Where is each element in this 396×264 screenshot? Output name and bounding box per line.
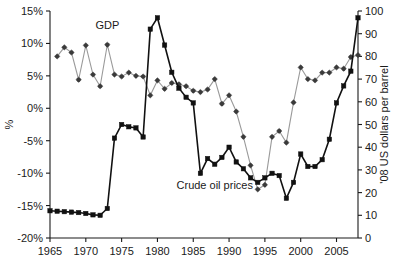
y2-tick-label: 80 bbox=[365, 50, 377, 62]
series-annotations: GDPCrude oil prices bbox=[95, 19, 253, 191]
y-tick-label: -5% bbox=[23, 135, 43, 147]
data-point-marker bbox=[234, 160, 238, 164]
data-point-marker bbox=[184, 95, 188, 99]
data-point-marker bbox=[198, 171, 202, 175]
crude-oil-series-label: Crude oil prices bbox=[177, 179, 254, 191]
x-tick-label: 2005 bbox=[324, 245, 348, 257]
data-point-marker bbox=[306, 164, 310, 168]
data-point-marker bbox=[298, 65, 303, 70]
y-tick-label: 0% bbox=[27, 102, 43, 114]
data-point-marker bbox=[126, 70, 131, 75]
x-tick-label: 1980 bbox=[145, 245, 169, 257]
data-point-marker bbox=[98, 213, 102, 217]
data-point-marker bbox=[141, 74, 146, 79]
x-tick-label: 1990 bbox=[217, 245, 241, 257]
data-point-marker bbox=[48, 209, 52, 213]
data-point-marker bbox=[248, 163, 253, 168]
data-point-marker bbox=[305, 77, 310, 82]
x-tick-label: 1970 bbox=[74, 245, 98, 257]
x-tick-label: 2000 bbox=[288, 245, 312, 257]
y-axis-tick-labels-left: -20%-15%-10%-5%0%5%10%15% bbox=[17, 5, 43, 244]
data-point-marker bbox=[170, 70, 174, 74]
data-point-marker bbox=[119, 122, 123, 126]
x-tick-label: 1975 bbox=[109, 245, 133, 257]
data-point-marker bbox=[191, 88, 196, 93]
data-point-marker bbox=[213, 162, 217, 166]
y2-tick-label: 70 bbox=[365, 73, 377, 85]
data-point-marker bbox=[141, 135, 145, 139]
data-point-marker bbox=[262, 182, 267, 187]
chart-plot-area: -20%-15%-10%-5%0%5%10%15% 01020304050607… bbox=[0, 0, 396, 264]
data-point-marker bbox=[291, 180, 295, 184]
y2-tick-label: 0 bbox=[365, 232, 371, 244]
data-point-marker bbox=[256, 180, 260, 184]
data-point-marker bbox=[270, 171, 274, 175]
data-point-marker bbox=[133, 73, 138, 78]
data-point-marker bbox=[83, 43, 88, 48]
y2-axis-title: '08 US dollars per barrel bbox=[378, 65, 390, 183]
axis-lines bbox=[50, 11, 358, 238]
data-point-marker bbox=[90, 72, 95, 77]
data-point-marker bbox=[313, 164, 317, 168]
data-point-marker bbox=[84, 211, 88, 215]
data-point-marker bbox=[327, 137, 331, 141]
data-point-marker bbox=[76, 210, 80, 214]
data-point-marker bbox=[356, 16, 360, 20]
y-tick-label: 15% bbox=[21, 5, 43, 17]
data-point-marker bbox=[148, 93, 153, 98]
data-point-marker bbox=[69, 210, 73, 214]
data-point-marker bbox=[341, 66, 346, 71]
x-axis-ticks bbox=[50, 238, 337, 242]
data-point-marker bbox=[127, 125, 131, 129]
series-gdp bbox=[55, 42, 361, 192]
data-point-marker bbox=[349, 69, 353, 73]
data-point-marker bbox=[112, 72, 117, 77]
data-point-marker bbox=[112, 136, 116, 140]
x-tick-label: 1995 bbox=[253, 245, 277, 257]
data-point-marker bbox=[241, 167, 245, 171]
y2-tick-label: 50 bbox=[365, 119, 377, 131]
data-point-marker bbox=[98, 84, 103, 89]
data-point-marker bbox=[227, 145, 231, 149]
y2-tick-label: 20 bbox=[365, 187, 377, 199]
data-point-marker bbox=[205, 156, 209, 160]
y-axis-ticks-left bbox=[46, 11, 50, 238]
data-point-marker bbox=[162, 43, 166, 47]
data-point-marker bbox=[263, 176, 267, 180]
y-tick-label: -15% bbox=[17, 200, 43, 212]
x-axis-tick-labels: 196519701975198019851990199520002005 bbox=[38, 245, 349, 257]
y2-tick-label: 60 bbox=[365, 96, 377, 108]
y2-tick-label: 90 bbox=[365, 28, 377, 40]
data-point-marker bbox=[119, 74, 124, 79]
data-point-marker bbox=[284, 140, 289, 145]
data-point-marker bbox=[76, 77, 81, 82]
y-tick-label: -10% bbox=[17, 167, 43, 179]
data-point-marker bbox=[155, 16, 159, 20]
y2-tick-label: 100 bbox=[365, 5, 383, 17]
data-point-marker bbox=[241, 134, 246, 139]
data-point-marker bbox=[291, 100, 296, 105]
y2-tick-label: 10 bbox=[365, 209, 377, 221]
y2-tick-label: 30 bbox=[365, 164, 377, 176]
data-point-marker bbox=[177, 86, 181, 90]
data-point-marker bbox=[334, 101, 338, 105]
y-tick-label: 10% bbox=[21, 37, 43, 49]
data-point-marker bbox=[198, 89, 203, 94]
data-point-marker bbox=[91, 213, 95, 217]
y-axis-title: % bbox=[3, 119, 15, 129]
data-point-marker bbox=[62, 209, 66, 213]
data-point-marker bbox=[183, 84, 188, 89]
y-tick-label: -20% bbox=[17, 232, 43, 244]
data-point-marker bbox=[277, 173, 281, 177]
data-point-marker bbox=[220, 155, 224, 159]
data-point-marker bbox=[284, 196, 288, 200]
data-point-marker bbox=[320, 157, 324, 161]
y-tick-label: 5% bbox=[27, 70, 43, 82]
chart-container: -20%-15%-10%-5%0%5%10%15% 01020304050607… bbox=[0, 0, 396, 264]
y2-tick-label: 40 bbox=[365, 141, 377, 153]
gdp-series-label: GDP bbox=[95, 19, 119, 31]
y-axis-ticks-right bbox=[358, 11, 362, 238]
data-point-marker bbox=[105, 206, 109, 210]
data-point-marker bbox=[148, 27, 152, 31]
data-point-marker bbox=[255, 187, 260, 192]
